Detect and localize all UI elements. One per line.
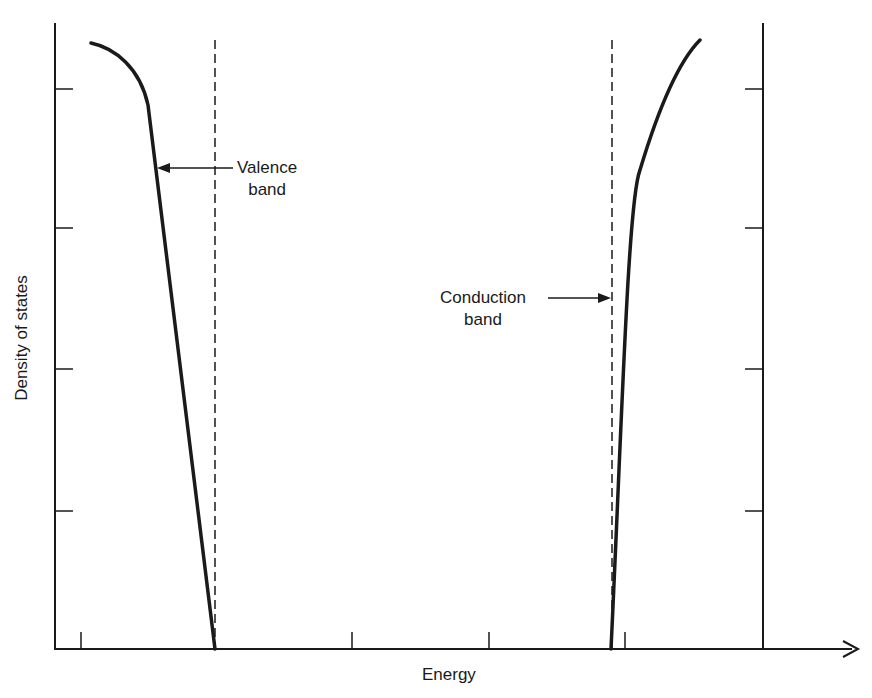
x-ticks xyxy=(81,632,625,649)
conduction-label-line2: band xyxy=(440,309,526,331)
conduction-band-label: Conduction band xyxy=(440,287,526,331)
x-axis-label: Energy xyxy=(422,664,476,686)
valence-band-curve xyxy=(91,43,215,649)
y-axis-label: Density of states xyxy=(12,275,32,401)
right-y-ticks xyxy=(745,89,763,511)
valence-label-line1: Valence xyxy=(237,157,297,179)
left-y-ticks xyxy=(55,89,73,511)
conduction-label-line1: Conduction xyxy=(440,287,526,309)
valence-arrowhead-icon xyxy=(157,163,170,173)
band-diagram xyxy=(0,0,872,698)
valence-band-label: Valence band xyxy=(237,157,297,201)
conduction-arrowhead-icon xyxy=(598,293,611,303)
valence-label-line2: band xyxy=(237,179,297,201)
conduction-band-curve xyxy=(611,40,700,649)
